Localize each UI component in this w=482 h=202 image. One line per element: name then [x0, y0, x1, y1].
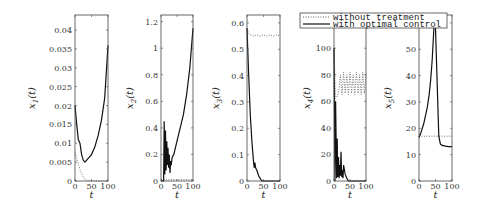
- y-tick-label: 0.3: [231, 98, 244, 107]
- y-tick-label: 1: [153, 44, 158, 53]
- x-tick-label: 0: [244, 182, 249, 191]
- y-tick-label: 0: [239, 177, 244, 186]
- y-tick-label: 100: [316, 44, 331, 53]
- y-tick-label: 0.4: [231, 72, 244, 81]
- x-tick-label: 0: [72, 182, 77, 191]
- series-with-optimal-control: [247, 28, 280, 181]
- panel-4: 020406080100120050100tx4(t): [301, 15, 374, 200]
- y-tick-label: 0.6: [145, 97, 158, 106]
- series-with-optimal-control: [419, 15, 452, 147]
- y-tick-label: 30: [406, 98, 416, 107]
- panel-3: 00.10.20.30.40.50.6050100tx3(t): [210, 15, 288, 200]
- y-tick-label: 0: [67, 177, 72, 186]
- x-tick-label: 100: [272, 182, 287, 191]
- y-tick-label: 0.025: [49, 83, 72, 92]
- series-with-optimal-control: [334, 48, 366, 181]
- y-axis-label: x3(t): [210, 87, 224, 109]
- series-with-optimal-control: [75, 45, 108, 162]
- y-tick-label: 0.015: [49, 120, 72, 129]
- y-tick-label: 0.2: [145, 150, 158, 159]
- x-tick-label: 0: [416, 182, 421, 191]
- y-tick-label: 0: [411, 177, 416, 186]
- series-with-optimal-control: [161, 28, 193, 181]
- x-tick-label: 100: [100, 182, 115, 191]
- y-tick-label: 50: [406, 45, 416, 54]
- panel-1: 00.0050.010.0150.020.0250.030.0350.04050…: [26, 15, 116, 200]
- x-tick-label: 0: [331, 182, 336, 191]
- y-tick-label: 0.6: [231, 19, 244, 28]
- y-axis-label: x1(t): [26, 87, 40, 109]
- axes-box: [75, 15, 108, 181]
- axes-box: [334, 15, 366, 181]
- y-tick-label: 80: [321, 71, 331, 80]
- y-tick-label: 0: [326, 177, 331, 186]
- y-tick-label: 0.01: [54, 139, 72, 148]
- y-tick-label: 40: [406, 72, 416, 81]
- x-tick-label: 100: [358, 182, 373, 191]
- y-tick-label: 10: [406, 151, 416, 160]
- y-tick-label: 0.4: [145, 124, 158, 133]
- y-tick-label: 20: [321, 150, 331, 159]
- y-tick-label: 0.5: [231, 45, 244, 54]
- panel-5: 0102030405060050100tx5(t): [382, 15, 460, 200]
- y-tick-label: 0.04: [54, 26, 72, 35]
- y-tick-label: 0: [153, 177, 158, 186]
- panel-2: 00.20.40.60.811.2050100tx2(t): [124, 15, 201, 200]
- y-tick-label: 0.03: [54, 64, 72, 73]
- legend-label-with-optimal-control: with optimal control: [333, 20, 441, 30]
- series-without-treatment: [75, 153, 108, 181]
- y-tick-label: 0.005: [49, 158, 72, 167]
- y-tick-label: 20: [406, 124, 416, 133]
- series-without-treatment: [247, 28, 280, 36]
- y-tick-label: 60: [321, 97, 331, 106]
- y-tick-label: 1.2: [145, 18, 158, 27]
- axes-box: [247, 15, 280, 181]
- legend: without treatment with optimal control: [300, 13, 447, 30]
- x-tick-label: 0: [158, 182, 163, 191]
- y-tick-label: 0.035: [49, 45, 72, 54]
- x-tick-label: 100: [185, 182, 200, 191]
- y-tick-label: 40: [321, 124, 331, 133]
- y-tick-label: 0.1: [231, 151, 244, 160]
- y-axis-label: x4(t): [301, 87, 315, 109]
- y-axis-label: x5(t): [382, 87, 396, 109]
- y-tick-label: 0.8: [145, 71, 158, 80]
- series-without-treatment: [334, 48, 366, 98]
- y-axis-label: x2(t): [124, 87, 138, 109]
- x-tick-label: 100: [444, 182, 459, 191]
- y-tick-label: 0.2: [231, 124, 244, 133]
- y-tick-label: 0.02: [54, 102, 72, 111]
- figure: 00.0050.010.0150.020.0250.030.0350.04050…: [0, 0, 482, 202]
